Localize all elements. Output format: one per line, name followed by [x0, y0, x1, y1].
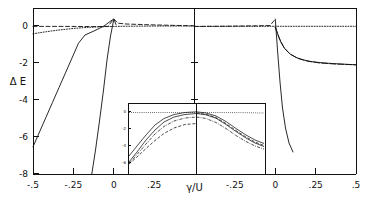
series-solid-steep-drop-right — [275, 19, 293, 152]
inset-y-tick-label-m2: -2 — [122, 126, 126, 131]
x-tick-label-left-4: .25 — [147, 180, 161, 190]
series-dashed-flat-right — [195, 19, 276, 26]
x-tick-label-right-3: .25 — [309, 180, 323, 190]
x-tick-label-left-1: -.5 — [27, 180, 39, 190]
series-solid-steepest-left — [92, 20, 114, 175]
y-tick-label-m2: -2 — [19, 58, 28, 68]
series-decay-curve-right — [275, 27, 356, 65]
x-tick-label-right-1: -.25 — [226, 180, 244, 190]
x-tick-label-left-3: 0 — [111, 180, 117, 190]
chart-figure: 0 -2 -4 -6 -8 Δ E -.5 -.25 0 .25 γ/U -.2… — [0, 0, 369, 207]
chart-plot-area: 0 -2 -4 -6 -8 Δ E -.5 -.25 0 .25 γ/U -.2… — [0, 0, 369, 207]
x-tick-label-left-2: -.25 — [65, 180, 83, 190]
series-dotted-lower — [33, 26, 194, 34]
x-axis-title: γ/U — [186, 182, 203, 193]
series-solid-steep-left — [33, 19, 116, 147]
y-axis-title: Δ E — [10, 76, 26, 87]
y-tick-label-m8: -8 — [19, 169, 28, 179]
x-tick-label-right-4: .5 — [352, 180, 361, 190]
y-tick-marks — [33, 25, 39, 173]
y-tick-label-m6: -6 — [19, 132, 28, 142]
inset-y-tick-label-m4: -4 — [122, 143, 126, 148]
y-tick-label-m4: -4 — [19, 95, 28, 105]
x-tick-label-right-2: 0 — [272, 180, 278, 190]
y-tick-label-0: 0 — [22, 21, 28, 31]
inset-axes — [128, 103, 265, 174]
inset-y-tick-label-0: 0 — [123, 109, 126, 114]
series-dashed-overlay-right — [275, 28, 356, 65]
inset-y-tick-label-m6: -6 — [122, 160, 126, 165]
